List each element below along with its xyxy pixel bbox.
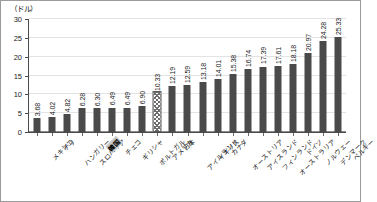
bar-value-label-フィンランド: 17.39 <box>259 47 266 64</box>
bar-value-label-日本: 12.19 <box>169 67 176 84</box>
bar-slot: 4.82 <box>59 19 74 132</box>
bar-value-label-アイルランド: 12.59 <box>184 66 191 83</box>
bar-series: 3.684.024.826.286.306.496.496.9010.3312.… <box>29 19 346 132</box>
bar-日本[interactable] <box>169 86 176 132</box>
y-axis-tick-labels: 051015202530 <box>1 19 28 132</box>
bar-value-label-メキシコ: 3.68 <box>33 103 40 116</box>
bar-アメリカ[interactable] <box>153 91 162 132</box>
bar-オーストリア[interactable] <box>229 74 236 132</box>
bar-slot: 6.28 <box>74 19 89 132</box>
bar-slot: 25.33 <box>331 19 346 132</box>
y-tick-label-5: 5 <box>18 109 22 118</box>
bar-slot: 4.02 <box>44 19 59 132</box>
bar-value-label-オーストリア: 15.38 <box>229 55 236 72</box>
bar-slot: 6.49 <box>104 19 119 132</box>
y-tick-label-25: 25 <box>14 33 22 42</box>
bar-value-label-デンマーク: 24.28 <box>320 22 327 39</box>
bar-slot: 6.30 <box>89 19 104 132</box>
bar-slot: 6.49 <box>120 19 135 132</box>
bar-value-label-イギリス: 13.18 <box>199 63 206 80</box>
bar-slot: 12.59 <box>180 19 195 132</box>
bar-オーストラリア[interactable] <box>275 66 282 132</box>
bar-ドイツ[interactable] <box>290 64 297 132</box>
bar-チェコ[interactable] <box>109 108 116 132</box>
x-axis-category-labels: メキシコチリハンガリースロバキア韓国チェコギリシャポルトガルアメリカ日本アイルラ… <box>29 136 346 202</box>
bar-value-label-ノルウェー: 20.97 <box>305 34 312 51</box>
bar-カナダ[interactable] <box>214 79 221 132</box>
bar-slot: 12.19 <box>165 19 180 132</box>
y-tick-label-30: 30 <box>14 15 22 24</box>
bar-value-label-ベルギー: 25.33 <box>335 18 342 35</box>
bar-slot: 17.39 <box>255 19 270 132</box>
bar-value-label-カナダ: 14.01 <box>214 60 221 77</box>
bar-value-label-アイスランド: 16.74 <box>244 50 251 67</box>
y-tick-label-10: 10 <box>14 90 22 99</box>
bar-value-label-チリ: 4.02 <box>48 102 55 115</box>
bar-ベルギー[interactable] <box>335 37 342 132</box>
bar-ノルウェー[interactable] <box>305 53 312 132</box>
bar-チリ[interactable] <box>48 117 55 132</box>
bar-slot: 24.28 <box>316 19 331 132</box>
bar-slot: 6.90 <box>135 19 150 132</box>
bar-value-label-ギリシャ: 6.49 <box>124 92 131 105</box>
category-label-ベルギー: ベルギー <box>350 136 376 162</box>
bar-slot: 15.38 <box>225 19 240 132</box>
bar-メキシコ[interactable] <box>33 118 40 132</box>
bar-デンマーク[interactable] <box>320 41 327 132</box>
bar-slot: 3.68 <box>29 19 44 132</box>
plot-area: 3.684.024.826.286.306.496.496.9010.3312.… <box>29 19 346 132</box>
bar-フィンランド[interactable] <box>259 67 266 133</box>
bar-value-label-アメリカ: 10.33 <box>154 74 161 91</box>
bar-value-label-チェコ: 6.49 <box>109 92 116 105</box>
bar-value-label-スロバキア: 6.28 <box>78 93 85 106</box>
bar-韓国[interactable] <box>93 108 100 132</box>
bar-value-label-ハンガリー: 4.82 <box>63 99 70 112</box>
bar-slot: 17.61 <box>271 19 286 132</box>
y-tick-label-0: 0 <box>18 128 22 137</box>
y-tick-label-20: 20 <box>14 52 22 61</box>
bar-slot: 14.01 <box>210 19 225 132</box>
bar-slot: 20.97 <box>301 19 316 132</box>
bar-slot: 10.33 <box>150 19 165 132</box>
bar-ハンガリー[interactable] <box>63 114 70 132</box>
bar-slot: 18.18 <box>286 19 301 132</box>
bar-イギリス[interactable] <box>199 82 206 132</box>
bar-value-label-韓国: 6.30 <box>93 93 100 106</box>
bar-アイスランド[interactable] <box>244 69 251 132</box>
bar-value-label-オーストラリア: 17.61 <box>275 47 282 64</box>
bar-slot: 16.74 <box>240 19 255 132</box>
bar-value-label-ポルトガル: 6.90 <box>139 91 146 104</box>
y-axis-unit-caption: （ドル） <box>10 3 37 14</box>
bar-アイルランド[interactable] <box>184 85 191 132</box>
bar-value-label-ドイツ: 18.18 <box>290 45 297 62</box>
bar-スロバキア[interactable] <box>78 108 85 132</box>
y-tick-label-15: 15 <box>14 71 22 80</box>
bar-slot: 13.18 <box>195 19 210 132</box>
bar-ポルトガル[interactable] <box>139 106 146 132</box>
bar-ギリシャ[interactable] <box>124 108 131 132</box>
